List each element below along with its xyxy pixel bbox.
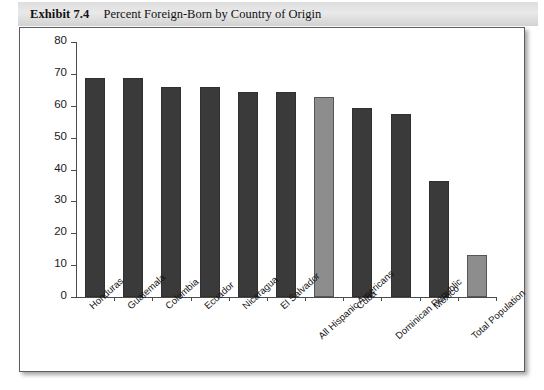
x-tick-mark [305,297,306,301]
y-tick-mark [71,170,76,171]
y-tick-mark [71,233,76,234]
x-tick-mark [381,297,382,301]
y-tick-label: 70 [43,66,67,78]
bar [276,92,296,297]
x-tick-mark [114,297,115,301]
x-tick-mark [496,297,497,301]
bar [123,78,143,297]
y-tick-label: 80 [43,34,67,46]
bar [200,87,220,297]
y-tick-mark [71,201,76,202]
bar [352,108,372,297]
y-tick-label: 30 [43,193,67,205]
y-tick-label: 20 [43,225,67,237]
bar [314,97,334,297]
y-tick-mark [71,106,76,107]
x-tick-mark [229,297,230,301]
x-tick-mark [458,297,459,301]
y-tick-label: 40 [43,162,67,174]
x-tick-mark [420,297,421,301]
exhibit-figure: Exhibit 7.4 Percent Foreign-Born by Coun… [0,0,544,390]
y-tick-mark [71,42,76,43]
y-tick-label: 0 [43,289,67,301]
bar [238,92,258,297]
x-tick-mark [267,297,268,301]
plot-area: 01020304050607080 [76,42,496,297]
bar [161,87,181,297]
bar [391,114,411,297]
y-tick-mark [71,297,76,298]
y-tick-label: 10 [43,257,67,269]
x-tick-mark [152,297,153,301]
y-tick-mark [71,265,76,266]
bar [85,78,105,297]
y-tick-label: 60 [43,98,67,110]
y-tick-mark [71,74,76,75]
bar [467,255,487,297]
y-tick-label: 50 [43,130,67,142]
x-tick-mark [343,297,344,301]
exhibit-title: Percent Foreign-Born by Country of Origi… [103,7,321,22]
exhibit-title-band: Exhibit 7.4 Percent Foreign-Born by Coun… [18,2,538,26]
y-tick-mark [71,138,76,139]
chart-frame: 01020304050607080 HondurasGuatemalaColom… [19,27,525,372]
x-tick-mark [191,297,192,301]
bar [429,181,449,297]
exhibit-number: Exhibit 7.4 [30,7,89,22]
